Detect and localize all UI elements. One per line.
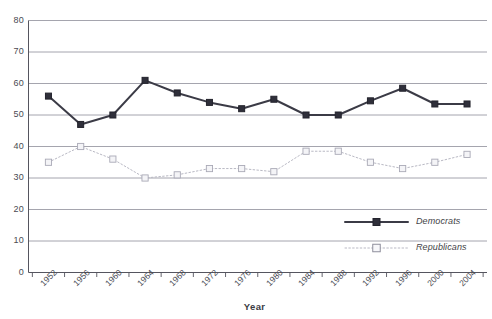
data-point-marker (432, 101, 438, 107)
data-point-marker (174, 172, 180, 178)
data-point-marker (206, 165, 212, 171)
y-axis-tick-label: 70 (0, 46, 24, 56)
data-point-marker (335, 148, 341, 154)
data-point-marker (45, 93, 51, 99)
legend-label-democrats: Democrats (416, 216, 460, 226)
y-axis-tick-label: 40 (0, 141, 24, 151)
data-point-marker (110, 112, 116, 118)
data-point-marker (432, 159, 438, 165)
x-axis-ticks (32, 273, 483, 278)
chart-container: 01020304050607080 1952195619601964196819… (0, 0, 492, 319)
y-axis-tick-label: 10 (0, 235, 24, 245)
gridlines (29, 21, 488, 242)
data-point-marker (206, 99, 212, 105)
x-axis-title: Year (244, 301, 266, 312)
legend-sample-marker (373, 219, 380, 226)
data-point-marker (464, 151, 470, 157)
y-axis-tick-label: 20 (0, 204, 24, 214)
data-point-marker (367, 159, 373, 165)
data-point-marker (303, 148, 309, 154)
data-point-marker (239, 106, 245, 112)
data-point-marker (78, 121, 84, 127)
data-point-marker (142, 77, 148, 83)
data-point-marker (174, 90, 180, 96)
data-point-marker (367, 98, 373, 104)
legend-sample-marker (373, 244, 381, 252)
data-point-marker (303, 112, 309, 118)
y-axis-tick-label: 60 (0, 78, 24, 88)
data-point-marker (335, 112, 341, 118)
data-point-marker (271, 169, 277, 175)
data-point-marker (110, 156, 116, 162)
data-point-marker (271, 96, 277, 102)
data-point-marker (464, 101, 470, 107)
data-point-marker (142, 175, 148, 181)
data-point-marker (45, 159, 51, 165)
data-point-marker (239, 165, 245, 171)
legend-label-republicans: Republicans (416, 242, 467, 252)
legend-marks (345, 219, 408, 252)
data-point-marker (400, 85, 406, 91)
data-series-group (45, 77, 470, 181)
y-axis-tick-label: 50 (0, 109, 24, 119)
y-axis-tick-label: 80 (0, 15, 24, 25)
data-point-marker (78, 143, 84, 149)
data-point-marker (400, 165, 406, 171)
y-axis-tick-label: 0 (0, 267, 24, 277)
y-axis-tick-label: 30 (0, 172, 24, 182)
